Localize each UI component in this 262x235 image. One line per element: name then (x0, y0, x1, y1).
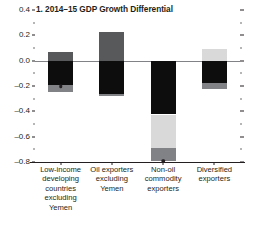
y-axis-tick-mark (240, 60, 244, 61)
x-axis-category-labels: Low-income developing countries excludin… (35, 165, 240, 233)
y-axis-tick-mark (32, 86, 36, 87)
y-axis-minor-tick-mark (33, 73, 35, 74)
y-axis-minor-tick-mark (240, 22, 242, 23)
y-axis-tick-mark (240, 10, 244, 11)
y-axis-minor-tick-mark (33, 124, 35, 125)
y-axis-tick-label: –0.2 (14, 82, 30, 90)
plot-area: 0.40.20.0–0.2–0.4–0.6–0.8 (35, 10, 240, 162)
bar-group (99, 10, 124, 162)
x-axis-line (30, 162, 245, 163)
y-axis-tick-label: –0.6 (14, 133, 30, 141)
y-axis-tick-mark (240, 86, 244, 87)
bar-segment (202, 49, 227, 60)
y-axis-minor-tick-mark (240, 73, 242, 74)
bar-group (151, 10, 176, 162)
y-axis-tick-mark (32, 10, 36, 11)
bar-segment (151, 61, 176, 115)
bar-segment (99, 61, 124, 95)
y-axis-minor-tick-mark (33, 48, 35, 49)
y-axis-tick-label: 0.0 (19, 57, 30, 65)
bar-segment (99, 94, 124, 96)
y-axis-tick-mark (240, 35, 244, 36)
bar-segment (151, 115, 176, 149)
y-axis-tick-label: 0.4 (19, 6, 30, 14)
bar-segment (99, 32, 124, 61)
y-axis-tick-mark (240, 136, 244, 137)
y-axis-minor-tick-mark (33, 149, 35, 150)
bar-segment (202, 61, 227, 83)
y-axis-tick-label: –0.8 (14, 158, 30, 166)
bar-segment (202, 83, 227, 89)
y-axis-minor-tick-mark (240, 124, 242, 125)
y-axis-minor-tick-mark (240, 98, 242, 99)
y-axis-minor-tick-mark (240, 48, 242, 49)
bar-segment (48, 52, 73, 60)
gdp-growth-differential-chart: 1. 2014–15 GDP Growth Differential 0.40.… (0, 0, 262, 235)
y-axis-tick-mark (32, 35, 36, 36)
y-axis-minor-tick-mark (33, 98, 35, 99)
y-axis-minor-tick-mark (33, 22, 35, 23)
y-axis-tick-label: 0.2 (19, 31, 30, 39)
x-axis-category-label: Diversified exporters (185, 165, 244, 184)
y-axis-tick-mark (240, 111, 244, 112)
bar-group (202, 10, 227, 162)
bar-segment (48, 61, 73, 86)
bar-total-marker (59, 84, 63, 88)
y-axis-tick-mark (32, 136, 36, 137)
y-axis-minor-tick-mark (240, 149, 242, 150)
bar-group (48, 10, 73, 162)
y-axis-tick-mark (32, 111, 36, 112)
y-axis-tick-label: –0.4 (14, 107, 30, 115)
